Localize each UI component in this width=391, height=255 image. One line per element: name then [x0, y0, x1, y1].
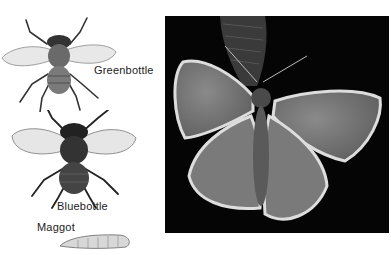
greenbottle-fly-illustration: [0, 12, 120, 112]
greenbottle-label: Greenbottle: [94, 64, 154, 76]
butterfly-photo: [165, 16, 389, 233]
bluebottle-fly-illustration: [8, 110, 138, 210]
maggot-illustration: [58, 232, 133, 250]
insect-illustrations: Greenbottle Bluebottle Maggot: [0, 0, 160, 255]
bluebottle-label: Bluebottle: [57, 200, 108, 212]
